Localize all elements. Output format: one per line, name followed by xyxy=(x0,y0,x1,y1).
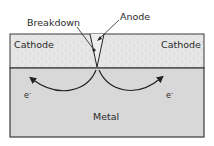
corrosion-diagram: Breakdown Anode Cathode Cathode Metal e-… xyxy=(0,0,214,146)
breakdown-point xyxy=(92,48,95,51)
metal-label: Metal xyxy=(93,111,119,122)
cathode-right-label: Cathode xyxy=(161,39,201,50)
breakdown-label: Breakdown xyxy=(27,17,80,28)
cathode-left-label: Cathode xyxy=(14,39,54,50)
anode-label: Anode xyxy=(120,11,150,22)
metal-layer xyxy=(10,68,204,137)
